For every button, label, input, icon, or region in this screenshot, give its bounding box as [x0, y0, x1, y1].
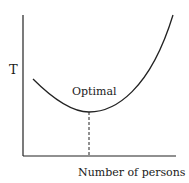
x-axis-label: Number of persons [78, 166, 186, 179]
y-axis-label: T [9, 62, 18, 77]
diagram: T Optimal Number of persons [0, 0, 189, 183]
optimal-label: Optimal [72, 85, 117, 98]
